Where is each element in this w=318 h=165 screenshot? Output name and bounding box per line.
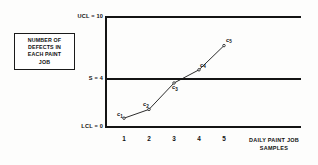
xtick-3: 3 <box>168 135 180 142</box>
xtick-4: 4 <box>193 135 205 142</box>
control-chart-figure: NUMBER OF DEFECTS IN EACH PAINT JOB UCL … <box>0 0 318 165</box>
point-label-c2: c2 <box>143 101 149 107</box>
point-label-c4: c4 <box>200 62 206 68</box>
point-label-c5: c5 <box>226 37 232 43</box>
series-point-group <box>123 44 226 119</box>
point-label-c1: c1 <box>117 111 123 117</box>
x-axis-title-line-1: DAILY PAINT JOB <box>231 136 317 144</box>
x-axis-title-line-2: SAMPLES <box>231 144 317 152</box>
data-point-c5 <box>223 44 226 47</box>
data-point-c4 <box>198 69 201 72</box>
point-label-c3: c3 <box>172 84 178 90</box>
data-point-c1 <box>123 117 126 120</box>
x-axis-title: DAILY PAINT JOB SAMPLES <box>231 136 317 152</box>
xtick-5: 5 <box>218 135 230 142</box>
xtick-2: 2 <box>143 135 155 142</box>
xtick-1: 1 <box>118 135 130 142</box>
